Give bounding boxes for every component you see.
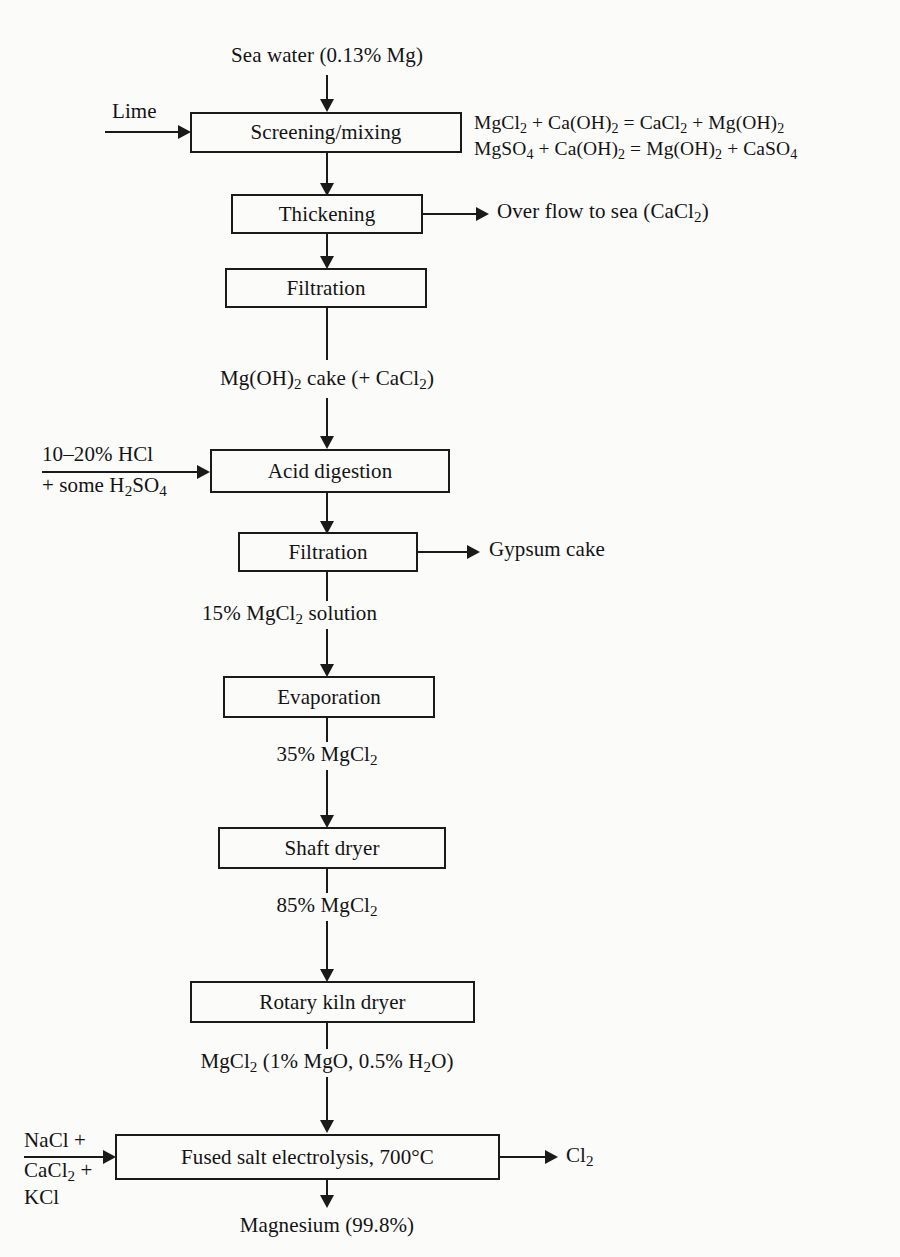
filtration1-label: Filtration bbox=[286, 278, 365, 299]
connector-acid-to-digestion bbox=[42, 471, 200, 473]
arrowhead-right-chlorine bbox=[545, 1150, 558, 1164]
label-chlorine-output: Cl2 bbox=[566, 1143, 594, 1171]
connector-screening-to-thickening bbox=[326, 153, 328, 185]
connector-salt-to-electrolysis bbox=[24, 1156, 106, 1158]
acid-input-line-1: 10–20% HCl bbox=[42, 442, 167, 467]
connector-electrolysis-to-chlorine bbox=[500, 1156, 548, 1158]
process-box-rotary-kiln-dryer[interactable]: Rotary kiln dryer bbox=[190, 981, 475, 1023]
stream-label-mgcl2-85: 85% MgCl2 bbox=[270, 893, 383, 921]
lime-text: Lime bbox=[112, 99, 157, 123]
filtration2-label: Filtration bbox=[288, 542, 367, 563]
flowchart-canvas: Sea water (0.13% Mg) Lime Screening/mixi… bbox=[0, 0, 900, 1257]
connector-lime-to-screening bbox=[105, 131, 181, 133]
salt-input-line-3: KCl bbox=[24, 1185, 93, 1210]
connector-seawater-to-screening bbox=[326, 75, 328, 100]
arrowhead-down-seawater bbox=[320, 99, 334, 112]
label-sea-water-input: Sea water (0.13% Mg) bbox=[231, 43, 423, 68]
label-gypsum-output: Gypsum cake bbox=[489, 537, 605, 562]
process-box-evaporation[interactable]: Evaporation bbox=[223, 676, 435, 718]
process-box-filtration-2[interactable]: Filtration bbox=[238, 532, 418, 572]
arrowhead-down-magnesium bbox=[320, 1195, 334, 1208]
arrowhead-right-overflow bbox=[476, 207, 489, 221]
stream-label-mgcl2-35: 35% MgCl2 bbox=[270, 742, 383, 770]
reaction-equation-2: MgSO4 + Ca(OH)2 = Mg(OH)2 + CaSO4 bbox=[474, 136, 797, 163]
process-box-thickening[interactable]: Thickening bbox=[231, 194, 423, 234]
process-box-fused-salt-electrolysis[interactable]: Fused salt electrolysis, 700°C bbox=[115, 1134, 500, 1180]
rotary-kiln-label: Rotary kiln dryer bbox=[259, 992, 405, 1013]
stream-label-mg-oh-cake: Mg(OH)2 cake (+ CaCl2) bbox=[220, 366, 434, 394]
stream-label-mgcl2-dry: MgCl2 (1% MgO, 0.5% H2O) bbox=[194, 1049, 459, 1077]
electrolysis-label: Fused salt electrolysis, 700°C bbox=[181, 1147, 434, 1168]
process-box-acid-digestion[interactable]: Acid digestion bbox=[210, 449, 450, 493]
process-box-screening-mixing[interactable]: Screening/mixing bbox=[190, 112, 462, 153]
acid-input-line-2: + some H2SO4 bbox=[42, 473, 167, 500]
acid-digestion-label: Acid digestion bbox=[268, 461, 392, 482]
salt-input-line-1: NaCl + bbox=[24, 1128, 93, 1153]
shaft-dryer-label: Shaft dryer bbox=[285, 838, 380, 859]
connector-cake-to-acid-digestion bbox=[326, 398, 328, 438]
arrowhead-right-gypsum bbox=[467, 545, 480, 559]
label-magnesium-output: Magnesium (99.8%) bbox=[240, 1213, 414, 1238]
stream-label-mgcl2-15: 15% MgCl2 solution bbox=[198, 601, 381, 629]
reaction-equation-1: MgCl2 + Ca(OH)2 = CaCl2 + Mg(OH)2 bbox=[474, 110, 784, 137]
process-box-shaft-dryer[interactable]: Shaft dryer bbox=[218, 827, 446, 869]
evaporation-label: Evaporation bbox=[277, 687, 381, 708]
process-box-filtration-1[interactable]: Filtration bbox=[225, 268, 427, 308]
screening-label: Screening/mixing bbox=[251, 122, 402, 143]
thickening-label: Thickening bbox=[279, 204, 376, 225]
connector-filtration2-to-gypsum bbox=[418, 551, 470, 553]
connector-thickening-to-overflow bbox=[423, 213, 479, 215]
label-overflow-output: Over flow to sea (CaCl2) bbox=[497, 199, 709, 227]
label-salt-input: NaCl + CaCl2 + KCl bbox=[24, 1128, 93, 1210]
arrowhead-down-acid-digestion bbox=[320, 436, 334, 449]
sea-water-text: Sea water (0.13% Mg) bbox=[231, 43, 423, 67]
arrowhead-down-electrolysis bbox=[320, 1120, 334, 1133]
arrowhead-right-acid bbox=[197, 465, 210, 479]
connector-shaft-dryer-to-kiln bbox=[326, 869, 328, 973]
connector-filtration1-to-cake bbox=[326, 308, 328, 360]
label-lime-input: Lime bbox=[112, 99, 157, 124]
salt-input-line-2: CaCl2 + bbox=[24, 1158, 93, 1185]
